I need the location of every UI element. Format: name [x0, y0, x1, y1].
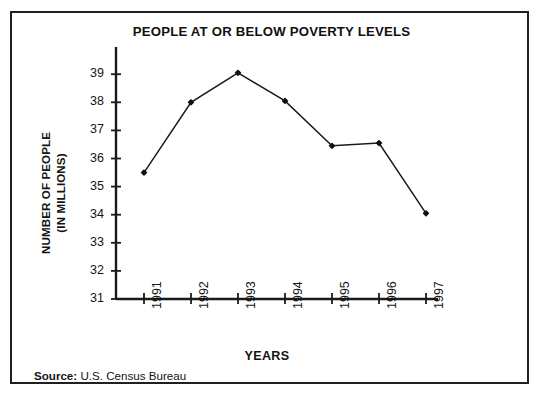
y-axis-title-line1: NUMBER OF PEOPLE — [38, 113, 53, 273]
data-point-core-1997 — [424, 211, 428, 215]
data-point-core-1992 — [189, 100, 193, 104]
y-axis-title: NUMBER OF PEOPLE (IN MILLIONS) — [38, 113, 56, 273]
x-tick-label-1991: 1991 — [150, 281, 164, 309]
x-axis-title: YEARS — [102, 349, 432, 363]
x-tick-label-1997: 1997 — [432, 281, 446, 309]
source-label: Source: — [34, 369, 77, 382]
x-tick-label-1994: 1994 — [291, 281, 305, 309]
source-value: U.S. Census Bureau — [80, 369, 186, 382]
y-tick-label-31: 31 — [64, 291, 104, 305]
data-point-core-1995 — [330, 144, 334, 148]
data-point-core-1991 — [142, 170, 146, 174]
data-series-line — [144, 73, 426, 214]
source-note: Source: U.S. Census Bureau — [34, 369, 186, 382]
data-point-markers — [141, 69, 430, 216]
figure-root: PEOPLE AT OR BELOW POVERTY LEVELS 313233… — [0, 0, 541, 397]
y-axis-title-line2: (IN MILLIONS) — [53, 113, 68, 273]
x-tick-label-1992: 1992 — [197, 281, 211, 309]
x-tick-label-1995: 1995 — [338, 281, 352, 309]
y-tick-label-38: 38 — [64, 94, 104, 108]
y-tick-label-39: 39 — [64, 66, 104, 80]
x-tick-label-1996: 1996 — [385, 281, 399, 309]
data-point-core-1996 — [377, 141, 381, 145]
data-point-core-1993 — [236, 71, 240, 75]
x-tick-label-1993: 1993 — [244, 281, 258, 309]
chart-frame-border: PEOPLE AT OR BELOW POVERTY LEVELS 313233… — [10, 11, 529, 384]
data-point-core-1994 — [283, 99, 287, 103]
plot-area: 313233343536373839 199119921993199419951… — [12, 13, 531, 386]
